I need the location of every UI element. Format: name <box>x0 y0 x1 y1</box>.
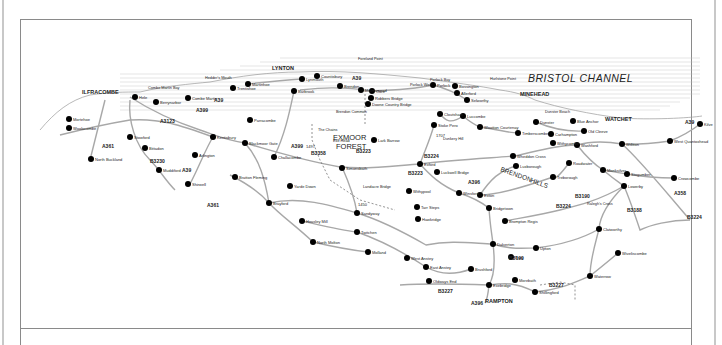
place-label: Clatworthy <box>603 227 622 232</box>
road-number-label: B3224 <box>424 153 439 159</box>
place-label: Withycombe <box>557 141 580 146</box>
town-marker[interactable] <box>185 181 191 187</box>
town-marker[interactable] <box>587 273 593 279</box>
major-town-label: LYNTON <box>272 65 294 71</box>
town-marker[interactable] <box>437 111 443 117</box>
place-label: Hawkridge <box>422 217 442 222</box>
road-number-label: B3224 <box>556 203 571 209</box>
town-marker[interactable] <box>192 152 198 158</box>
town-marker[interactable] <box>66 125 72 131</box>
place-label: Martinhoe <box>252 82 271 87</box>
town-marker[interactable] <box>615 250 621 256</box>
town-marker[interactable] <box>365 101 371 107</box>
town-marker[interactable] <box>464 97 470 103</box>
town-marker[interactable] <box>454 90 460 96</box>
town-marker[interactable] <box>426 278 432 284</box>
town-marker[interactable] <box>232 174 238 180</box>
town-marker[interactable] <box>127 134 133 140</box>
town-marker[interactable] <box>510 153 516 159</box>
town-marker[interactable] <box>600 167 606 173</box>
town-marker[interactable] <box>486 205 492 211</box>
town-marker[interactable] <box>697 121 703 127</box>
place-label: Oare <box>376 89 386 94</box>
town-marker[interactable] <box>570 118 576 124</box>
town-marker[interactable] <box>153 99 159 105</box>
town-marker[interactable] <box>477 124 483 130</box>
town-marker[interactable] <box>415 216 421 222</box>
town-marker[interactable] <box>671 175 677 181</box>
place-label: Winsford <box>463 191 479 196</box>
town-marker[interactable] <box>414 204 420 210</box>
town-marker[interactable] <box>156 167 162 173</box>
town-marker[interactable] <box>512 277 518 283</box>
town-marker[interactable] <box>365 249 371 255</box>
road-number-label: A361 <box>102 143 114 149</box>
town-marker[interactable] <box>266 200 272 206</box>
place-label: Carhampton <box>555 132 577 137</box>
town-marker[interactable] <box>299 218 305 224</box>
town-marker[interactable] <box>371 137 377 143</box>
town-marker[interactable] <box>291 88 297 94</box>
place-label: Wiveliscombe <box>622 251 647 256</box>
town-marker[interactable] <box>242 140 248 146</box>
town-marker[interactable] <box>354 210 360 216</box>
town-marker[interactable] <box>339 165 345 171</box>
place-label: North Molton <box>317 240 340 245</box>
place-label: Allerford <box>461 91 476 96</box>
town-marker[interactable] <box>456 190 462 196</box>
town-marker[interactable] <box>299 76 305 82</box>
town-marker[interactable] <box>185 95 191 101</box>
town-marker[interactable] <box>230 85 236 91</box>
town-marker[interactable] <box>596 226 602 232</box>
road-number-label: A39 <box>685 119 694 125</box>
town-marker[interactable] <box>550 140 556 146</box>
town-marker[interactable] <box>310 239 316 245</box>
town-marker[interactable] <box>210 134 216 140</box>
place-label: Lark Barrow <box>378 138 400 143</box>
place-label: Brayford <box>273 201 288 206</box>
town-marker[interactable] <box>581 128 587 134</box>
town-marker[interactable] <box>132 94 138 100</box>
town-marker[interactable] <box>271 154 277 160</box>
town-marker[interactable] <box>515 130 521 136</box>
road-number-label: A396 <box>471 300 483 306</box>
map-canvas[interactable]: HeleBerrynarborCombe MartinTrentishoeMar… <box>0 0 722 345</box>
town-marker[interactable] <box>533 119 539 125</box>
town-marker[interactable] <box>486 282 492 288</box>
town-marker[interactable] <box>406 188 412 194</box>
town-marker[interactable] <box>417 161 423 167</box>
town-marker[interactable] <box>502 218 508 224</box>
town-marker[interactable] <box>88 156 94 162</box>
town-marker[interactable] <box>513 163 519 169</box>
place-label: Blackmoor Gate <box>249 141 278 146</box>
town-marker[interactable] <box>532 289 538 295</box>
town-marker[interactable] <box>368 95 374 101</box>
town-marker[interactable] <box>619 141 625 147</box>
town-marker[interactable] <box>423 264 429 270</box>
town-marker[interactable] <box>548 131 554 137</box>
town-marker[interactable] <box>431 122 437 128</box>
town-marker[interactable] <box>550 174 556 180</box>
town-marker[interactable] <box>566 160 572 166</box>
road-number-label: A3123 <box>160 118 175 124</box>
roads-layer <box>60 79 700 303</box>
town-marker[interactable] <box>287 183 293 189</box>
coastal-feature-label: Porlock Bay <box>430 78 450 82</box>
town-marker[interactable] <box>468 266 474 272</box>
town-marker[interactable] <box>337 83 343 89</box>
town-marker[interactable] <box>667 138 673 144</box>
place-label: Timberscombe <box>522 131 549 136</box>
road-number-label: B3227 <box>438 288 453 294</box>
town-marker[interactable] <box>404 255 410 261</box>
town-marker[interactable] <box>247 117 253 123</box>
town-marker[interactable] <box>354 229 360 235</box>
town-marker[interactable] <box>621 183 627 189</box>
town-marker[interactable] <box>434 169 440 175</box>
town-marker[interactable] <box>490 241 496 247</box>
place-label: Luckwell Bridge <box>441 170 470 175</box>
place-label: Hele <box>139 95 148 100</box>
town-marker[interactable] <box>66 116 72 122</box>
town-marker[interactable] <box>452 83 458 89</box>
town-marker[interactable] <box>142 145 148 151</box>
town-marker[interactable] <box>533 245 539 251</box>
